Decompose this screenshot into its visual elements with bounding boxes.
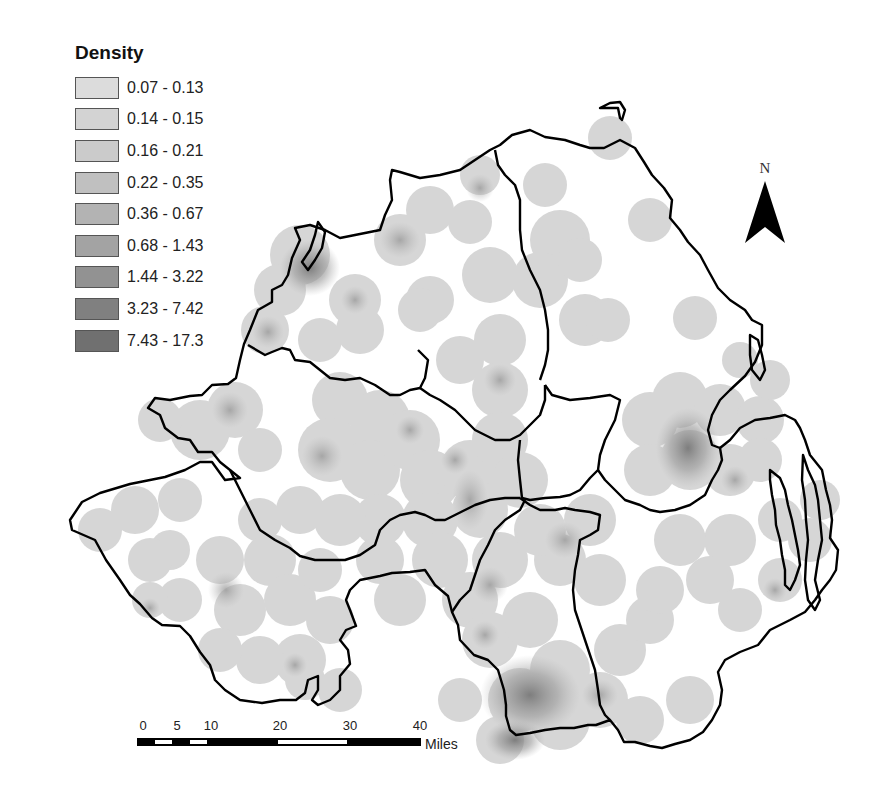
legend-swatch (75, 298, 119, 320)
legend-item: 7.43 - 17.3 (75, 325, 204, 357)
scale-segment (190, 740, 207, 744)
north-arrow: N (740, 160, 790, 251)
scale-tick: 40 (413, 718, 427, 733)
legend-item: 0.16 - 0.21 (75, 135, 204, 167)
legend: Density 0.07 - 0.13 0.14 - 0.15 0.16 - 0… (75, 42, 204, 356)
scale-tick: 30 (343, 718, 357, 733)
scale-tick: 5 (173, 718, 180, 733)
scale-tick: 10 (204, 718, 218, 733)
legend-item: 0.22 - 0.35 (75, 167, 204, 199)
scale-bar-graphic (137, 738, 421, 746)
legend-label: 3.23 - 7.42 (127, 300, 204, 318)
scale-tick: 20 (273, 718, 287, 733)
legend-swatch (75, 140, 119, 162)
scale-segment (155, 740, 172, 744)
legend-swatch (75, 235, 119, 257)
legend-swatch (75, 330, 119, 352)
legend-item: 0.36 - 0.67 (75, 198, 204, 230)
legend-label: 1.44 - 3.22 (127, 268, 204, 286)
density-hotspots (140, 174, 787, 760)
legend-swatch (75, 108, 119, 130)
scale-unit: Miles (425, 736, 458, 752)
legend-label: 0.14 - 0.15 (127, 110, 204, 128)
legend-label: 0.36 - 0.67 (127, 205, 204, 223)
legend-item: 3.23 - 7.42 (75, 293, 204, 325)
legend-label: 0.68 - 1.43 (127, 237, 204, 255)
legend-label: 0.16 - 0.21 (127, 142, 204, 160)
legend-label: 0.07 - 0.13 (127, 79, 204, 97)
north-arrow-icon (740, 177, 790, 247)
legend-swatch (75, 77, 119, 99)
legend-label: 0.22 - 0.35 (127, 174, 204, 192)
scale-bar: 0 5 10 20 30 40 Miles (137, 718, 437, 746)
legend-swatch (75, 203, 119, 225)
legend-swatch (75, 266, 119, 288)
legend-item: 1.44 - 3.22 (75, 262, 204, 294)
legend-item: 0.14 - 0.15 (75, 104, 204, 136)
legend-item: 0.68 - 1.43 (75, 230, 204, 262)
legend-swatch (75, 172, 119, 194)
legend-item: 0.07 - 0.13 (75, 72, 204, 104)
scale-ticks: 0 5 10 20 30 40 (137, 718, 437, 736)
legend-label: 7.43 - 17.3 (127, 332, 204, 350)
scale-segment (278, 740, 347, 744)
scale-tick: 0 (139, 718, 146, 733)
legend-title: Density (75, 42, 204, 64)
north-label: N (740, 160, 790, 177)
